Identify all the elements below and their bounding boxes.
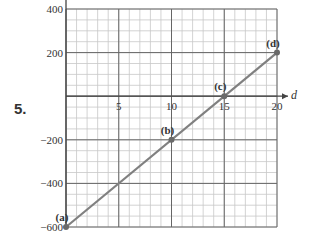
x-tick-label: 15 (219, 100, 231, 112)
x-tick-label: 10 (166, 100, 178, 112)
data-point-label: (b) (161, 124, 175, 137)
x-tick-label: 20 (272, 100, 284, 112)
y-tick-label: −200 (40, 134, 63, 146)
line-chart: d 5101520400200−200−400−600 (a)(b)(c)(d) (0, 0, 310, 246)
data-point-marker (221, 93, 227, 99)
y-tick-label: 200 (47, 47, 64, 59)
data-point-label: (d) (266, 37, 280, 50)
x-axis-arrow-icon (282, 93, 288, 99)
data-point-marker (274, 50, 280, 56)
y-tick-label: 400 (47, 3, 64, 15)
data-points: (a)(b)(c)(d) (56, 37, 280, 230)
data-point-label: (a) (56, 211, 69, 224)
data-point-marker (169, 137, 175, 143)
data-point-label: (c) (214, 80, 227, 93)
x-axis-label: d (291, 88, 298, 102)
y-tick-label: −400 (40, 177, 63, 189)
data-point-marker (63, 224, 69, 230)
x-tick-label: 5 (116, 100, 122, 112)
